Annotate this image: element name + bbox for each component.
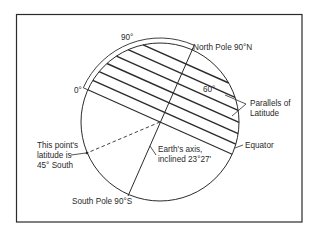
label-0-degrees: 0° <box>74 86 82 95</box>
earth-axis <box>128 48 193 196</box>
label-point-1: This point's <box>37 141 78 150</box>
point-leader <box>71 153 86 155</box>
latitude-diagram: 0° 90° North Pole 90°N 60° Parallels of … <box>0 0 319 232</box>
label-axis-2: inclined 23°27' <box>158 155 212 164</box>
equator-leader <box>235 145 243 148</box>
axis-leader <box>150 146 156 155</box>
label-south-pole: South Pole 90°S <box>72 197 133 206</box>
label-equator: Equator <box>245 141 274 150</box>
diagram-frame <box>17 15 303 223</box>
label-north-pole: North Pole 90°N <box>193 43 252 52</box>
label-90-degrees: 90° <box>121 33 133 42</box>
label-point-3: 45° South <box>37 161 73 170</box>
label-parallels-1: Parallels of <box>250 99 291 108</box>
label-60-degrees: 60° <box>203 85 215 94</box>
label-parallels-2: Latitude <box>250 109 280 118</box>
label-axis-1: Earth's axis, <box>158 145 202 154</box>
parallels-of-latitude <box>88 45 239 154</box>
point-45-south <box>86 152 89 155</box>
label-point-2: latitude is <box>37 151 72 160</box>
